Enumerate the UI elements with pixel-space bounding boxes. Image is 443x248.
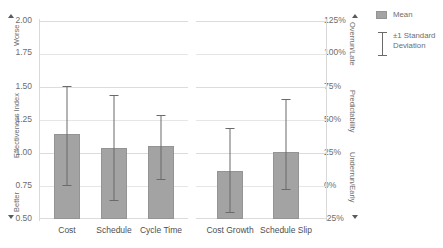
errorbar-stem: [67, 86, 68, 186]
right-axis-tick-0: 125%: [324, 16, 346, 25]
errorbar-cap-bottom: [63, 185, 72, 186]
bar-slot-cycle-time: [138, 21, 184, 219]
errorbar-cap-top: [110, 95, 119, 96]
bar-slot-cost: [44, 21, 90, 219]
category-label-schedule: Schedule: [96, 224, 131, 236]
errorbar-schedule-slip: [282, 99, 291, 190]
errorbar-cap-top: [282, 99, 291, 100]
category-label-cost-growth: Cost Growth: [206, 224, 253, 236]
left-axis-up-arrow-icon: [8, 14, 14, 18]
left-axis-title: Effectiveness Index: [13, 93, 21, 158]
category-label-cycle-time: Cycle Time: [140, 224, 182, 236]
right-axis-down-arrow-icon: [352, 215, 358, 219]
errorbar-cap-bottom: [110, 200, 119, 201]
bar-slot-schedule-slip: [260, 21, 312, 219]
left-axis-bottom-word: Better: [13, 192, 21, 212]
left-axis-tick-5: 0.75: [15, 181, 32, 190]
chart-legend: Mean ±1 Standard Deviation: [376, 10, 442, 67]
errorbar-cycle-time: [157, 115, 166, 180]
right-axis-up-arrow-icon: [352, 14, 358, 18]
errorbar-cap-top: [63, 86, 72, 87]
bar-slot-schedule: [91, 21, 137, 219]
legend-item-mean: Mean: [376, 10, 442, 21]
errorbar-stem: [161, 115, 162, 180]
left-axis-tick-2: 1.50: [15, 82, 32, 91]
legend-mean-label: Mean: [393, 10, 442, 20]
category-label-cost: Cost: [58, 224, 75, 236]
predictability-bars: [196, 21, 326, 219]
legend-std-dev-label-line2: Deviation: [393, 41, 442, 51]
errorbar-cap-top: [157, 115, 166, 116]
chart-container: 2.00 1.75 1.50 1.25 1.00 0.75 0.50 Worse…: [0, 0, 443, 248]
left-axis-tick-1: 1.75: [15, 48, 32, 57]
left-axis: 2.00 1.75 1.50 1.25 1.00 0.75 0.50 Worse…: [2, 0, 36, 248]
right-axis: 125% 100% 75% 50% 25% 0% -25% Overrun/La…: [322, 0, 366, 248]
legend-errorbar-stem: [382, 32, 383, 56]
errorbar-schedule: [110, 95, 119, 201]
errorbar-cap-bottom: [157, 179, 166, 180]
right-axis-line: [326, 19, 327, 221]
errorbar-cap-bottom: [226, 212, 235, 213]
errorbar-stem: [230, 128, 231, 213]
left-axis-down-arrow-icon: [8, 215, 14, 219]
legend-error-bar-icon: [378, 32, 387, 56]
right-axis-title: Predictability: [348, 90, 356, 133]
legend-std-dev-label-line1: ±1 Standard: [393, 31, 442, 41]
effectiveness-plot-area: [40, 21, 188, 219]
errorbar-cap-bottom: [282, 189, 291, 190]
errorbar-cost: [63, 86, 72, 186]
predictability-plot-area: [196, 21, 326, 219]
legend-errorbar-cap-bottom: [378, 55, 387, 56]
errorbar-stem: [114, 95, 115, 201]
errorbar-cap-top: [226, 128, 235, 129]
right-axis-tick-1: 100%: [324, 48, 346, 57]
effectiveness-bars: [40, 21, 188, 219]
left-axis-top-word: Worse: [13, 24, 21, 46]
legend-mean-swatch-icon: [376, 11, 387, 19]
category-label-schedule-slip: Schedule Slip: [260, 224, 312, 236]
effectiveness-category-labels: Cost Schedule Cycle Time: [40, 224, 188, 242]
legend-item-std-dev: ±1 Standard Deviation: [376, 31, 442, 57]
right-axis-bottom-word: Underrun/Early: [348, 152, 356, 202]
left-axis-tick-6: 0.50: [15, 214, 32, 223]
legend-errorbar-cap-top: [378, 32, 387, 33]
errorbar-cost-growth: [226, 128, 235, 213]
bar-slot-cost-growth: [204, 21, 256, 219]
errorbar-stem: [286, 99, 287, 190]
right-axis-top-word: Overrun/Late: [348, 22, 356, 66]
predictability-category-labels: Cost Growth Schedule Slip: [196, 224, 326, 242]
